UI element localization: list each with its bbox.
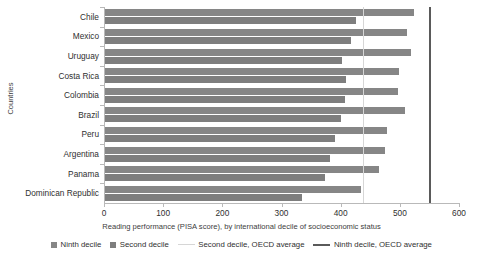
chart-root: Countries 0100200300400500600 Reading pe… [0, 0, 483, 259]
y-axis-category-label: Colombia [0, 90, 99, 100]
x-axis-tick-label: 500 [380, 208, 420, 218]
legend-item[interactable]: Second decile, OECD average [178, 240, 305, 249]
x-axis-tick [104, 203, 105, 207]
x-axis-tick [459, 203, 460, 207]
y-axis-tick [100, 183, 104, 184]
bar-ninth-decile [105, 186, 361, 193]
bar-ninth-decile [105, 107, 405, 114]
legend-item-label: Ninth decile, OECD average [334, 240, 432, 249]
bar-second-decile [105, 37, 351, 44]
bar-second-decile [105, 96, 345, 103]
y-axis-category-label: Argentina [0, 149, 99, 159]
legend-item[interactable]: Ninth decile [51, 240, 101, 249]
y-axis-tick [100, 105, 104, 106]
chart-legend: Ninth decileSecond decileSecond decile, … [0, 240, 483, 249]
bar-ninth-decile [105, 68, 399, 75]
legend-line-icon [313, 244, 330, 246]
bar-second-decile [105, 174, 325, 181]
bar-second-decile [105, 194, 302, 201]
bar-second-decile [105, 155, 330, 162]
y-axis-category-label: Uruguay [0, 51, 99, 61]
y-axis-tick [100, 7, 104, 8]
y-axis-category-label: Peru [0, 129, 99, 139]
x-axis-tick [163, 203, 164, 207]
y-axis-tick [100, 125, 104, 126]
y-axis-tick [100, 66, 104, 67]
y-axis-category-label: Costa Rica [0, 71, 99, 81]
bar-ninth-decile [105, 88, 398, 95]
legend-line-icon [178, 244, 195, 246]
legend-item[interactable]: Ninth decile, OECD average [313, 240, 431, 249]
bar-ninth-decile [105, 166, 379, 173]
x-axis-tick-label: 400 [321, 208, 361, 218]
reference-line-ninth-decile-oecd [429, 7, 431, 203]
legend-item[interactable]: Second decile [110, 240, 168, 249]
bar-ninth-decile [105, 49, 411, 56]
x-axis-tick-label: 200 [202, 208, 242, 218]
x-axis-tick-label: 100 [143, 208, 183, 218]
reference-line-second-decile-oecd [363, 7, 364, 203]
x-axis-tick-label: 300 [262, 208, 302, 218]
legend-item-label: Second decile, OECD average [198, 240, 304, 249]
plot-area: 0100200300400500600 [104, 7, 459, 203]
y-axis-category-label: Mexico [0, 31, 99, 41]
y-axis-tick [100, 164, 104, 165]
x-axis-tick-label: 600 [439, 208, 479, 218]
bar-second-decile [105, 76, 346, 83]
x-axis-tick-label: 0 [84, 208, 124, 218]
bar-ninth-decile [105, 29, 407, 36]
bar-ninth-decile [105, 127, 387, 134]
legend-swatch-icon [51, 242, 57, 248]
legend-item-label: Ninth decile [61, 240, 102, 249]
legend-item-label: Second decile [120, 240, 169, 249]
x-axis-tick [282, 203, 283, 207]
x-axis-title: Reading performance (PISA score), by int… [0, 222, 483, 231]
y-axis-category-label: Brazil [0, 110, 99, 120]
bar-second-decile [105, 17, 356, 24]
y-axis-tick [100, 85, 104, 86]
y-axis-tick [100, 144, 104, 145]
bar-second-decile [105, 135, 335, 142]
legend-swatch-icon [110, 242, 116, 248]
bar-ninth-decile [105, 9, 414, 16]
bar-second-decile [105, 57, 342, 64]
bar-ninth-decile [105, 147, 385, 154]
y-axis-category-label: Chile [0, 12, 99, 22]
y-axis-category-label: Panama [0, 169, 99, 179]
x-axis-tick [400, 203, 401, 207]
x-axis-tick [222, 203, 223, 207]
y-axis-tick [100, 46, 104, 47]
y-axis-tick [100, 27, 104, 28]
x-axis-tick [341, 203, 342, 207]
y-axis-category-label: Dominican Republic [0, 188, 99, 198]
bar-second-decile [105, 115, 341, 122]
